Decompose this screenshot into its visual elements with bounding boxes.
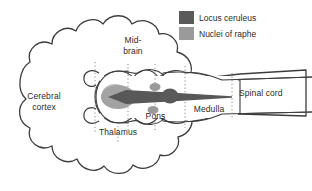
label-pons: Pons [139, 111, 172, 121]
label-medulla: Medulla [187, 104, 231, 114]
label-midbrain-line2: brain [116, 46, 150, 56]
locus-ceruleus-swatch [179, 11, 194, 24]
locus-ceruleus-blob [162, 89, 179, 104]
legend: Locus ceruleus Nuclei of raphe [179, 11, 256, 40]
label-spinal-cord: Spinal cord [239, 88, 283, 98]
legend-item-nuclei-of-raphe: Nuclei of raphe [179, 27, 256, 40]
brain-diagram-figure: Locus ceruleus Nuclei of raphe Cerebral … [0, 0, 312, 191]
raphe-dorsal-pontine-blob [150, 83, 161, 91]
legend-label-locus-ceruleus: Locus ceruleus [199, 13, 256, 23]
nuclei-of-raphe-swatch [179, 27, 194, 40]
label-cerebral-cortex-line2: cortex [16, 102, 72, 112]
legend-item-locus-ceruleus: Locus ceruleus [179, 11, 256, 24]
label-midbrain-line1: Mid- [116, 35, 150, 45]
label-thalamus: Thalamus [86, 127, 150, 137]
legend-label-nuclei-of-raphe: Nuclei of raphe [199, 29, 256, 39]
label-cerebral-cortex-line1: Cerebral [16, 91, 72, 101]
